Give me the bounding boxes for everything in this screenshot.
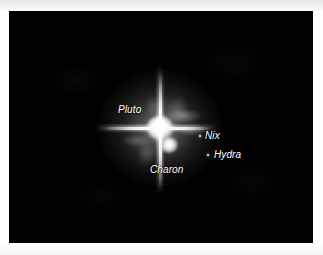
label-charon: Charon: [150, 164, 183, 175]
page-bottom-gradient: [0, 244, 323, 255]
astronomy-photo: Pluto Charon Nix Hydra: [9, 11, 313, 243]
label-pluto: Pluto: [118, 104, 141, 115]
pluto-system-group: Pluto Charon Nix Hydra: [9, 11, 313, 243]
label-hydra: Hydra: [214, 149, 241, 160]
page-top-gradient: [0, 0, 323, 11]
page-canvas: Pluto Charon Nix Hydra: [0, 0, 323, 255]
label-nix: Nix: [205, 130, 220, 141]
